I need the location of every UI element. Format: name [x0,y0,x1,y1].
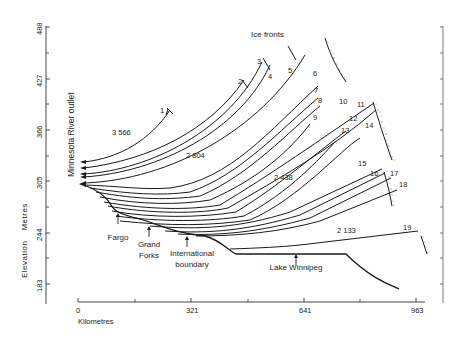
ice-front-number: 10 [339,97,347,106]
x-tick-label: 963 [411,306,424,315]
x-tick-label: 0 [76,306,80,315]
x-axis-ticks: 0321641963 [76,298,424,315]
ice-front-number: 4 [268,72,272,81]
ice-front-number: 8 [318,96,322,105]
place-label: Lake Winnipeg [270,263,323,272]
ice-fronts-title: Ice fronts [251,30,284,39]
ice-front-number: 1 [160,106,164,115]
place-label: International [170,249,214,258]
y-axis-label: ElevationMetres [20,203,29,278]
y-tick-label: 488 [35,22,44,35]
strandline-length-label: 2 804 [186,151,205,160]
strandline-diagram: 488427366305244183 0321641963 ElevationM… [0,0,462,338]
place-label: Grand [138,240,160,249]
ice-front-number: 2 [238,77,242,86]
place-label-line2: boundary [175,260,208,269]
diagram-canvas: 488427366305244183 0321641963 ElevationM… [0,0,462,338]
ice-front-number: 3 [257,57,261,66]
ice-front-number: 14 [365,121,373,130]
y-tick-label: 366 [35,125,44,138]
ice-front-number: 6 [313,69,317,78]
arrow-head-icon [147,226,151,230]
place-label-line2: Forks [139,251,159,260]
ice-front-number: 17 [390,169,398,178]
y-tick-label: 427 [35,74,44,87]
place-marker: GrandForks [138,226,160,260]
ice-front-stipple [327,41,428,252]
outlet-arrows [79,160,86,187]
arrow-head-icon [185,236,189,240]
ice-front-number: 12 [349,114,357,123]
place-label: Fargo [108,233,129,242]
x-axis-label: Kilometres [78,317,114,326]
ice-front-number: 18 [399,180,407,189]
y-axis-ticks: 488427366305244183 [35,22,50,292]
strandline-length-label: 2 133 [337,226,356,235]
strandline-length-label: 3 566 [112,128,131,137]
ice-front-number: 9 [313,113,317,122]
place-marker: Internationalboundary [170,236,214,269]
x-tick-label: 641 [299,306,312,315]
ice-front-number: 16 [370,169,378,178]
ice-front-number: 5 [288,66,292,75]
outlet-label: Minnesota River outlet [66,92,76,177]
place-markers: FargoGrandForksInternationalboundaryLake… [108,213,323,272]
x-tick-label: 321 [186,306,199,315]
strandlines [84,55,418,249]
y-tick-label: 183 [35,279,44,292]
right-axis [440,26,443,303]
place-marker: Lake Winnipeg [270,254,323,272]
y-tick-label: 244 [35,228,44,241]
y-tick-label: 305 [35,176,44,189]
ice-front-number: 11 [357,100,365,109]
ice-front-number: 7 [314,86,318,95]
ice-front-number: 15 [358,159,366,168]
ice-front-number: 13 [341,126,349,135]
strandline-length-label: 2 438 [274,173,293,182]
arrow-head-icon [116,213,120,217]
ice-front-number: 19 [403,223,411,232]
